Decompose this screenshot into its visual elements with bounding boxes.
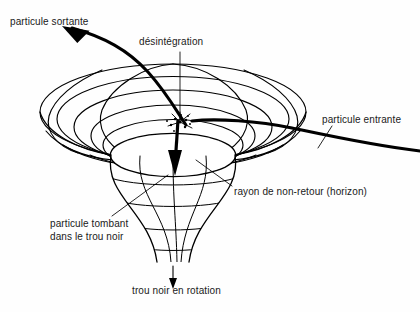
label-falling-particle-line2: dans le trou noir [50, 231, 123, 244]
label-rotating-black-hole: trou noir en rotation [132, 285, 221, 297]
label-incoming-particle: particule entrante [322, 114, 401, 126]
funnel-throat-grid [105, 156, 241, 262]
outgoing-particle-arrowhead [60, 26, 90, 45]
label-outgoing-particle: particule sortante [10, 16, 89, 28]
black-hole-funnel-graphic [0, 0, 420, 312]
label-falling-particle-line1: particule tombant [50, 218, 128, 231]
label-horizon-radius: rayon de non-retour (horizon) [234, 186, 367, 198]
label-disintegration: désintégration [139, 36, 203, 48]
black-hole-diagram: particule sortante désintégration partic… [0, 0, 420, 312]
